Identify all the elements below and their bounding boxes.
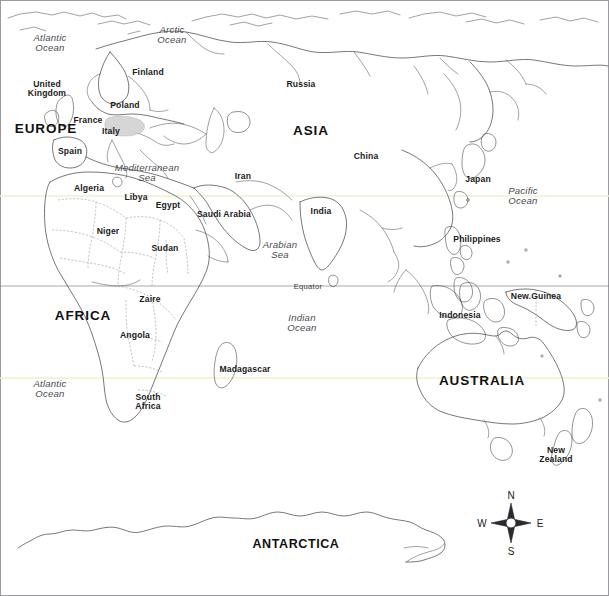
compass-rose: N S E W xyxy=(475,487,547,559)
compass-south-label: S xyxy=(508,546,515,557)
compass-west-label: W xyxy=(477,518,486,529)
highlighted-region xyxy=(105,116,145,136)
compass-north-label: N xyxy=(507,490,514,501)
compass-east-label: E xyxy=(537,518,544,529)
world-map: .coast { fill:none; stroke:#3d3d42; stro… xyxy=(0,0,609,596)
